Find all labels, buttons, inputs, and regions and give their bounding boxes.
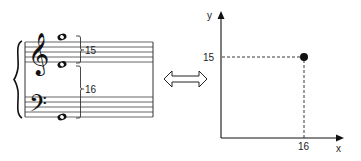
bass-note bbox=[57, 113, 68, 122]
interval-label-16: 16 bbox=[85, 84, 97, 95]
coordinate-plot: y x 15 16 bbox=[203, 10, 344, 154]
middle-note bbox=[57, 60, 68, 69]
data-point bbox=[300, 53, 308, 61]
x-tick-label: 16 bbox=[298, 141, 310, 152]
interval-label-15: 15 bbox=[85, 45, 97, 56]
double-arrow-icon bbox=[164, 71, 207, 87]
grand-staff: 𝄞 𝄢 15 16 bbox=[14, 33, 153, 123]
diagram-canvas: 𝄞 𝄢 15 16 bbox=[0, 0, 361, 161]
x-axis-arrow-icon bbox=[336, 135, 344, 142]
x-axis-label: x bbox=[336, 143, 341, 154]
bass-clef-icon: 𝄢 bbox=[29, 90, 47, 123]
y-axis-arrow-icon bbox=[218, 11, 225, 19]
top-treble-note bbox=[57, 33, 68, 42]
y-tick-label: 15 bbox=[203, 52, 215, 63]
treble-clef-icon: 𝄞 bbox=[28, 33, 49, 76]
interval-bracket-15 bbox=[76, 36, 84, 63]
brace-icon bbox=[14, 41, 22, 118]
y-axis-label: y bbox=[207, 10, 212, 21]
interval-bracket-16 bbox=[76, 66, 84, 118]
